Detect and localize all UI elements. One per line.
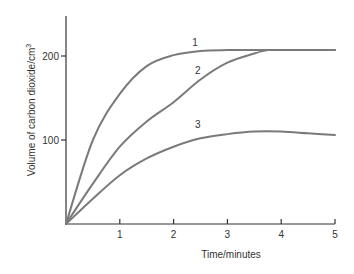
y-axis-ticks: 100200 [42, 51, 66, 146]
curve-label-1: 1 [192, 37, 198, 48]
y-axis-title-main: Volume of carbon dioxide/cm [26, 48, 37, 176]
y-tick-label: 100 [42, 135, 59, 146]
x-tick-label: 4 [278, 229, 284, 240]
curve-3 [66, 131, 335, 224]
x-axis-ticks: 12345 [117, 219, 338, 240]
x-tick-label: 5 [332, 229, 338, 240]
y-axis-title-sup: 3 [25, 44, 32, 48]
curve-label-2: 2 [195, 65, 201, 76]
x-tick-label: 1 [117, 229, 123, 240]
x-axis-title: Time/minutes [201, 249, 261, 260]
x-tick-label: 3 [225, 229, 231, 240]
y-tick-label: 200 [42, 51, 59, 62]
line-chart: Volume of carbon dioxide/cm3 Time/minute… [0, 0, 354, 274]
curve-label-3: 3 [195, 119, 201, 130]
x-tick-label: 2 [171, 229, 177, 240]
svg-text:Volume of carbon dioxide/cm3: Volume of carbon dioxide/cm3 [25, 44, 37, 176]
y-axis-title: Volume of carbon dioxide/cm3 [25, 44, 37, 176]
